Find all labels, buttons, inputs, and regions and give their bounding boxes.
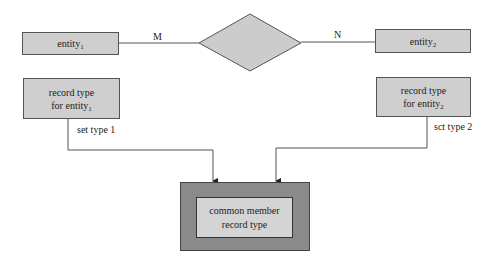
record-type-1-line2: for entity1 <box>51 99 91 112</box>
relationship-diamond <box>199 14 301 71</box>
common-member-line1: common member <box>209 204 279 218</box>
set-type-2-label: sct type 2 <box>434 121 472 132</box>
record-type-entity2-box: record type for entity2 <box>376 77 471 117</box>
entity1-box: entity1 <box>22 32 119 55</box>
record-type-2-line1: record type <box>401 84 446 97</box>
common-member-line2: record type <box>222 218 267 232</box>
common-member-record-box: common member record type <box>196 197 293 238</box>
cardinality-m-label: M <box>153 31 162 42</box>
set-type-2-arrow <box>276 117 427 181</box>
set-type-1-label: set type 1 <box>77 124 115 135</box>
entity1-label: entity1 <box>57 37 83 50</box>
entity2-label: entity2 <box>410 35 436 48</box>
record-type-2-line2: for entity2 <box>403 97 443 110</box>
entity2-box: entity2 <box>375 29 471 53</box>
record-type-1-line1: record type <box>49 86 94 99</box>
record-type-entity1-box: record type for entity1 <box>23 78 120 119</box>
cardinality-n-label: N <box>334 29 341 40</box>
